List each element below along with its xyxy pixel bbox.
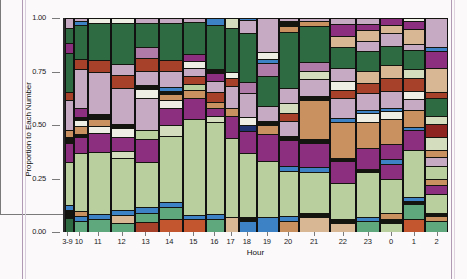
- bar-segment: [426, 157, 447, 166]
- bar-segment: [136, 23, 158, 47]
- stacked-bar[interactable]: [225, 18, 239, 232]
- x-tick-mark: [247, 232, 248, 236]
- stacked-bar[interactable]: [330, 18, 356, 232]
- bar-segment: [426, 116, 447, 125]
- bar-segment: [357, 71, 379, 84]
- bar-segment: [112, 215, 134, 224]
- stacked-bar[interactable]: [380, 18, 403, 232]
- bar-segment: [280, 32, 299, 88]
- stacked-bar[interactable]: [65, 18, 74, 232]
- bar-segment: [240, 131, 256, 152]
- x-tick-label: 3-9: [62, 237, 72, 246]
- bar-segment: [258, 217, 278, 232]
- bar-segment: [381, 111, 402, 118]
- stacked-bar[interactable]: [135, 18, 159, 232]
- bar-segment: [300, 217, 329, 232]
- bar-segment: [280, 88, 299, 103]
- stacked-bar[interactable]: [74, 18, 88, 232]
- bar-segment: [240, 117, 256, 126]
- x-tick-label: 2: [435, 237, 439, 246]
- bar-segment: [66, 218, 73, 232]
- stacked-bar[interactable]: [279, 18, 300, 232]
- stacked-bar[interactable]: [183, 18, 207, 232]
- bar-segment: [240, 153, 256, 217]
- bar-segment: [89, 152, 111, 214]
- x-tick-mark: [368, 232, 369, 236]
- bar-segment: [381, 65, 402, 78]
- bar-segment: [258, 106, 278, 121]
- bar-segment: [112, 137, 134, 151]
- bar-segment: [404, 99, 425, 110]
- stacked-bar[interactable]: [111, 18, 135, 232]
- x-tick-label: 14: [165, 237, 173, 246]
- bar-segment: [160, 136, 182, 202]
- bar-segment: [184, 219, 206, 232]
- bar-segment: [112, 158, 134, 209]
- x-tick-mark: [98, 232, 99, 236]
- bar-segment: [136, 213, 158, 223]
- stacked-bar[interactable]: [239, 18, 257, 232]
- bar-segment: [207, 73, 223, 82]
- bar-segment: [258, 134, 278, 162]
- bar-segment: [381, 25, 402, 34]
- bar-segment: [112, 128, 134, 137]
- y-tick-label: 0.00: [18, 227, 46, 236]
- bar-segment: [426, 137, 447, 150]
- plot-area: [63, 18, 448, 232]
- stacked-bar[interactable]: [257, 18, 279, 232]
- bar-segment: [75, 25, 87, 59]
- bar-segment: [226, 108, 238, 117]
- bar-segment: [300, 26, 329, 62]
- bar-segment: [404, 21, 425, 28]
- bar-segment: [160, 23, 182, 59]
- y-tick-mark: [52, 18, 60, 19]
- chart-figure: 0.000.250.500.751.00 3-91011121314151617…: [0, 0, 467, 279]
- bar-segment: [331, 68, 355, 81]
- bar-segment: [240, 20, 256, 33]
- bar-segment: [357, 41, 379, 52]
- stacked-bar[interactable]: [356, 18, 380, 232]
- bar-segment: [357, 122, 379, 148]
- bar-segment: [89, 219, 111, 232]
- bar-segment: [381, 46, 402, 65]
- bar-segment: [75, 153, 87, 211]
- stacked-bar[interactable]: [88, 18, 112, 232]
- bar-segment: [404, 50, 425, 69]
- bar-segment: [160, 100, 182, 107]
- x-tick-mark: [414, 232, 415, 236]
- bar-segment: [331, 36, 355, 47]
- bar-segment: [331, 223, 355, 232]
- x-tick-mark: [79, 232, 80, 236]
- bar-segment: [331, 47, 355, 68]
- x-tick-mark: [214, 232, 215, 236]
- stacked-bar[interactable]: [159, 18, 183, 232]
- bar-segment: [357, 30, 379, 41]
- bar-segment: [66, 162, 73, 205]
- bar-segment: [226, 18, 238, 28]
- bar-segment: [240, 33, 256, 82]
- bar-segment: [280, 121, 299, 136]
- bar-segment: [136, 89, 158, 99]
- bar-segment: [66, 143, 73, 162]
- x-tick-label: 0: [389, 237, 393, 246]
- bar-segment: [381, 33, 402, 46]
- bar-segment: [226, 28, 238, 72]
- stacked-bar[interactable]: [206, 18, 224, 232]
- stacked-bar[interactable]: [299, 18, 330, 232]
- bar-segment: [404, 29, 425, 44]
- stacked-bar[interactable]: [425, 18, 448, 232]
- bar-segment: [426, 68, 447, 92]
- bar-segment: [136, 130, 158, 139]
- page-margin-rule-right-2: [454, 0, 455, 279]
- bar-segment: [357, 93, 379, 110]
- y-axis-label-holder: Proportion to Each Number: [0, 0, 1, 279]
- bar-segment: [331, 98, 355, 117]
- bar-segment: [300, 62, 329, 71]
- bar-segment: [381, 78, 402, 91]
- bar-segment: [240, 93, 256, 117]
- stacked-bar[interactable]: [403, 18, 426, 232]
- bar-segment: [331, 90, 355, 99]
- bar-segment: [207, 92, 223, 102]
- bar-segment: [381, 164, 402, 179]
- bar-segment: [112, 23, 134, 64]
